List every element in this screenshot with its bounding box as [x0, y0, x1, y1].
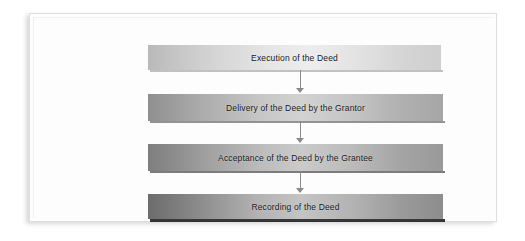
- flow-step-label: Acceptance of the Deed by the Grantee: [218, 153, 373, 163]
- arrow-shaft: [300, 171, 301, 189]
- arrow-shaft: [300, 121, 301, 139]
- arrow-head-down-icon: [296, 88, 304, 93]
- arrow-acceptance-to-recording: [294, 171, 307, 194]
- flow-step-execution-of-the-deed: Execution of the Deed: [148, 45, 441, 70]
- flow-step-label: Execution of the Deed: [251, 53, 338, 63]
- flow-step-label: Delivery of the Deed by the Grantor: [226, 103, 365, 113]
- arrow-execution-to-delivery: [294, 70, 307, 94]
- flow-step-acceptance-of-the-deed-by-the-grantee: Acceptance of the Deed by the Grantee: [148, 144, 443, 171]
- flow-step-label: Recording of the Deed: [251, 202, 339, 212]
- arrow-head-down-icon: [296, 188, 304, 193]
- arrow-head-down-icon: [296, 138, 304, 143]
- flow-step-recording-of-the-deed: Recording of the Deed: [148, 194, 443, 219]
- arrow-shaft: [300, 70, 301, 89]
- diagram-panel: Execution of the Deed Delivery of the De…: [29, 13, 497, 222]
- arrow-delivery-to-acceptance: [294, 121, 307, 144]
- flow-step-delivery-of-the-deed-by-the-grantor: Delivery of the Deed by the Grantor: [148, 94, 443, 121]
- diagram-canvas: Execution of the Deed Delivery of the De…: [0, 0, 525, 241]
